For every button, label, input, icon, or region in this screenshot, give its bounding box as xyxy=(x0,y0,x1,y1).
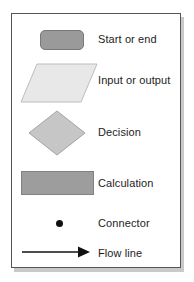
symbol-cell-calculation xyxy=(12,162,98,204)
legend-label-input-or-output: Input or output xyxy=(98,57,182,103)
legend-label-flow-line: Flow line xyxy=(98,238,182,268)
legend-row-calculation: Calculation xyxy=(12,162,180,204)
symbol-cell-start-or-end xyxy=(12,22,98,56)
rounded-rectangle-icon xyxy=(40,30,84,50)
symbol-cell-connector xyxy=(12,208,98,238)
legend-label-connector: Connector xyxy=(98,208,182,238)
legend-label-calculation: Calculation xyxy=(98,162,182,204)
symbol-cell-decision xyxy=(12,106,98,158)
legend-row-connector: Connector xyxy=(12,208,180,238)
diamond-icon xyxy=(28,110,86,156)
rectangle-icon xyxy=(21,171,94,195)
symbol-cell-input-or-output xyxy=(12,57,98,103)
symbol-cell-flow-line xyxy=(12,238,98,268)
arrow-right-icon xyxy=(22,245,96,259)
legend-row-start-or-end: Start or end xyxy=(12,22,180,56)
legend-row-decision: Decision xyxy=(12,106,180,158)
legend-row-flow-line: Flow line xyxy=(12,238,180,268)
legend-label-decision: Decision xyxy=(98,106,182,158)
parallelogram-icon xyxy=(20,63,98,103)
filled-circle-icon xyxy=(56,220,63,227)
legend-row-input-or-output: Input or output xyxy=(12,57,180,103)
flowchart-symbols-legend-panel: Start or end Input or output Decision xyxy=(11,13,181,268)
legend-label-start-or-end: Start or end xyxy=(98,22,182,56)
